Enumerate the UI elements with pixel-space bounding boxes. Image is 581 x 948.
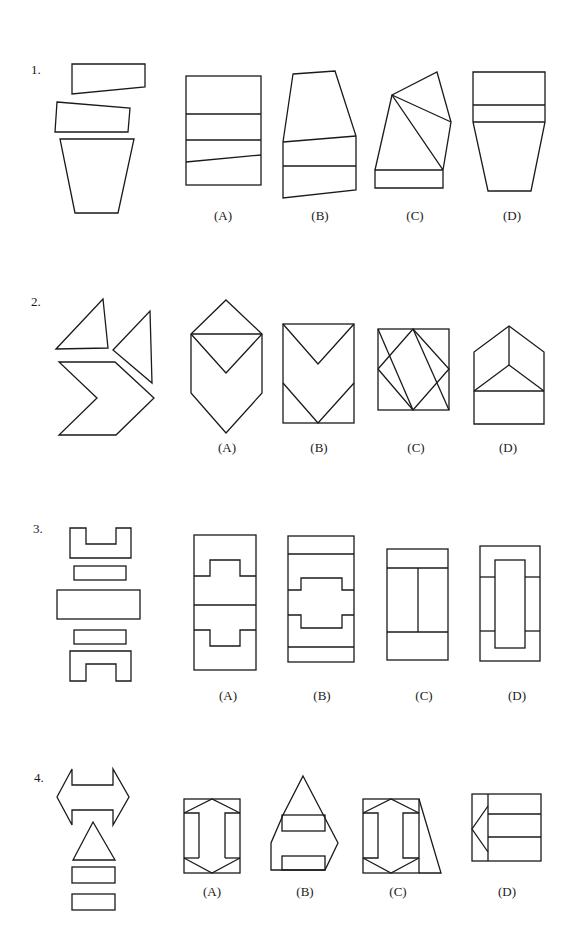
figure-canvas <box>0 0 581 948</box>
q4-option-a-label[interactable]: (A) <box>203 884 221 900</box>
q4-option-c-figure[interactable] <box>363 799 441 873</box>
q2-option-d-label[interactable]: (D) <box>499 440 517 456</box>
q2-option-c-label[interactable]: (C) <box>407 440 424 456</box>
q1-option-a-label[interactable]: (A) <box>214 208 232 224</box>
q3-option-b-label[interactable]: (B) <box>313 688 330 704</box>
q4-option-b-figure[interactable] <box>271 776 338 870</box>
q3-option-c-figure[interactable] <box>387 549 448 660</box>
q3-option-a-label[interactable]: (A) <box>219 688 237 704</box>
q4-option-b-label[interactable]: (B) <box>296 884 313 900</box>
q4-option-d-figure[interactable] <box>472 794 541 861</box>
q3-option-d-figure[interactable] <box>480 546 540 661</box>
q2-option-b-figure[interactable] <box>283 324 354 423</box>
q3-option-a-figure[interactable] <box>194 535 256 670</box>
q1-option-b-label[interactable]: (B) <box>311 208 328 224</box>
q1-option-c-label[interactable]: (C) <box>406 208 423 224</box>
q4-pieces <box>57 769 129 910</box>
q3-option-b-figure[interactable] <box>288 536 354 662</box>
q2-option-b-label[interactable]: (B) <box>310 440 327 456</box>
q1-option-c-figure[interactable] <box>375 72 451 188</box>
q2-option-d-figure[interactable] <box>474 326 544 424</box>
q2-pieces <box>56 299 154 435</box>
q1-option-b-figure[interactable] <box>283 71 356 198</box>
q2-option-a-label[interactable]: (A) <box>218 440 236 456</box>
q4-option-c-label[interactable]: (C) <box>389 884 406 900</box>
q1-pieces <box>55 64 145 213</box>
q2-option-a-figure[interactable] <box>191 300 262 433</box>
q2-option-c-figure[interactable] <box>378 329 449 410</box>
q1-option-d-label[interactable]: (D) <box>503 208 521 224</box>
q1-option-d-figure[interactable] <box>473 72 545 191</box>
q3-option-c-label[interactable]: (C) <box>415 688 432 704</box>
q3-option-d-label[interactable]: (D) <box>508 688 526 704</box>
q1-option-a-figure[interactable] <box>186 76 261 185</box>
q3-pieces <box>57 528 140 681</box>
q4-option-d-label[interactable]: (D) <box>498 884 516 900</box>
q4-option-a-figure[interactable] <box>184 799 240 873</box>
